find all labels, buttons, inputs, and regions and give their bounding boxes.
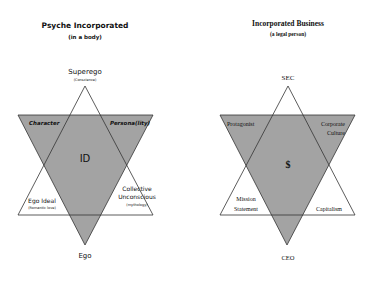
- right-lower-right: Capitalism: [316, 206, 342, 212]
- left-title: Psyche Incorporated: [42, 21, 129, 30]
- right-lower-left-1: Mission: [236, 196, 255, 202]
- diagram-canvas: Psyche Incorporated (in a body) Superego…: [0, 0, 372, 282]
- right-center-label: $: [286, 159, 291, 170]
- left-lower-left-sub: (Romantic love): [28, 206, 56, 210]
- left-top-label: Superego: [68, 68, 101, 76]
- right-upper-right-2: Culture: [327, 130, 345, 136]
- left-bottom-label: Ego: [78, 252, 91, 260]
- right-lower-left-2: Statement: [234, 206, 258, 212]
- psyche-diagram: [18, 86, 153, 245]
- down-triangle: [18, 115, 153, 245]
- left-subtitle: (in a body): [68, 34, 102, 41]
- right-subtitle: (a legal person): [270, 31, 306, 38]
- right-title: Incorporated Business: [252, 19, 324, 28]
- right-top-label: SEC: [282, 74, 295, 82]
- left-lower-right-1: Collective: [122, 185, 152, 192]
- left-upper-left: Character: [29, 120, 60, 126]
- right-upper-right-1: Corporate: [321, 121, 345, 127]
- left-lower-right-sub: (mythology): [126, 203, 148, 207]
- left-lower-right-2: Unconscious: [118, 193, 156, 200]
- left-lower-left: Ego Ideal: [28, 197, 56, 205]
- left-upper-right: Persona(lity): [110, 120, 150, 127]
- left-center-label: ID: [80, 153, 91, 164]
- left-top-sub: (Conscience): [74, 78, 97, 82]
- right-upper-left: Protagonist: [227, 121, 255, 127]
- right-bottom-label: CEO: [282, 254, 295, 261]
